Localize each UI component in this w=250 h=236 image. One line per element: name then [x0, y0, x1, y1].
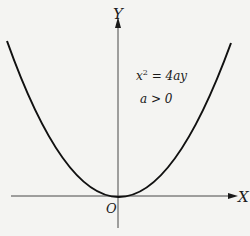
- x-axis-arrow-icon: [228, 193, 238, 199]
- equation-label: x2 = 4ay: [136, 68, 187, 83]
- x-axis-label: X: [237, 188, 250, 206]
- parabola-diagram: Y X O x2 = 4ay a > 0: [0, 0, 250, 236]
- y-axis-label: Y: [113, 5, 125, 23]
- parabola-curve: [7, 41, 231, 197]
- condition-label: a > 0: [140, 92, 173, 106]
- origin-label: O: [106, 201, 117, 216]
